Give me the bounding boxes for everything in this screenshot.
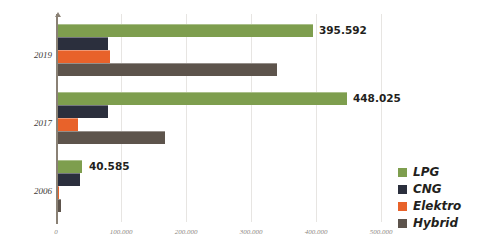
bar-cng-2019[interactable] (56, 37, 108, 50)
category-label-2006: 2006 (4, 186, 52, 196)
data-label-lpg-2017: 448.025 (353, 92, 401, 105)
x-tick-300000: 300.000 (240, 228, 263, 236)
legend-label-lpg: LPG (413, 166, 439, 179)
legend-item-elektro[interactable]: Elektro (398, 198, 478, 215)
legend-swatch-lpg (398, 168, 407, 177)
legend-label-hybrid: Hybrid (413, 217, 458, 230)
legend-label-elektro: Elektro (413, 200, 461, 213)
y-axis-line (56, 14, 58, 224)
bar-lpg-2019[interactable] (56, 24, 313, 37)
bar-cng-2006[interactable] (56, 173, 80, 186)
category-label-2019: 2019 (4, 50, 52, 60)
bar-elektro-2019[interactable] (56, 50, 110, 63)
x-tick-100000: 100.000 (110, 228, 133, 236)
gridline-300000 (251, 14, 252, 222)
bar-hybrid-2019[interactable] (56, 63, 277, 76)
legend-swatch-elektro (398, 202, 407, 211)
bar-lpg-2006[interactable] (56, 160, 82, 173)
legend-swatch-hybrid (398, 219, 407, 228)
bar-lpg-2017[interactable] (56, 92, 347, 105)
legend-label-cng: CNG (413, 183, 442, 196)
legend-item-hybrid[interactable]: Hybrid (398, 215, 478, 232)
gridline-100000 (121, 14, 122, 222)
legend-item-cng[interactable]: CNG (398, 181, 478, 198)
x-tick-500000: 500.000 (370, 228, 393, 236)
bar-elektro-2017[interactable] (56, 118, 78, 131)
bar-chart: 395.592 448.025 40.585 2019 2017 2006 0 … (0, 0, 479, 251)
x-tick-400000: 400.000 (305, 228, 328, 236)
data-label-lpg-2006: 40.585 (89, 160, 130, 173)
gridline-200000 (186, 14, 187, 222)
bar-cng-2017[interactable] (56, 105, 108, 118)
gridline-500000 (381, 14, 382, 222)
data-label-lpg-2019: 395.592 (319, 24, 367, 37)
legend-item-lpg[interactable]: LPG (398, 164, 478, 181)
legend: LPG CNG Elektro Hybrid (398, 164, 478, 232)
x-tick-0: 0 (54, 228, 58, 236)
gridline-400000 (316, 14, 317, 222)
category-axis: 2019 2017 2006 (0, 0, 52, 251)
bar-hybrid-2017[interactable] (56, 131, 165, 144)
x-tick-200000: 200.000 (175, 228, 198, 236)
legend-swatch-cng (398, 185, 407, 194)
category-label-2017: 2017 (4, 118, 52, 128)
plot-area: 395.592 448.025 40.585 (56, 14, 381, 222)
